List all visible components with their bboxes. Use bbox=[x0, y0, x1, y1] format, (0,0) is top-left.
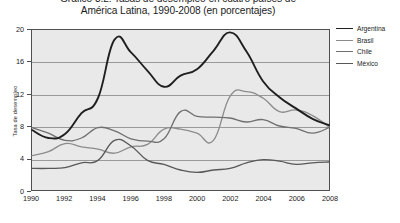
series-line-mxico bbox=[32, 139, 329, 172]
legend-label: Chile bbox=[357, 48, 372, 55]
y-axis-title: Tasa de desempleo bbox=[12, 56, 18, 166]
chart-title: Gráfico 3.2: Tasas de desempleo en cuatr… bbox=[28, 0, 328, 17]
legend-swatch bbox=[336, 28, 353, 29]
x-axis-tick-label: 2008 bbox=[315, 194, 345, 203]
legend-item-argentina: Argentina bbox=[336, 23, 400, 35]
x-axis-tick-label: 1992 bbox=[49, 194, 79, 203]
chart-title-line-2: América Latina, 1990-2008 (en porcentaje… bbox=[28, 5, 328, 17]
chart-legend: ArgentinaBrasilChileMéxico bbox=[336, 23, 400, 69]
y-axis-tick-label: 20 bbox=[0, 25, 24, 34]
y-axis-tick-mark bbox=[27, 159, 31, 160]
legend-item-mxico: México bbox=[336, 58, 400, 70]
y-axis-tick-mark bbox=[27, 29, 31, 30]
x-axis-tick-label: 2002 bbox=[215, 194, 245, 203]
x-axis-tick-label: 2006 bbox=[282, 194, 312, 203]
legend-label: México bbox=[357, 60, 378, 67]
series-lines bbox=[32, 30, 329, 190]
legend-label: Argentina bbox=[357, 25, 385, 32]
legend-item-chile: Chile bbox=[336, 46, 400, 58]
y-axis-tick-label: 8 bbox=[0, 122, 24, 131]
y-axis-tick-mark bbox=[27, 191, 31, 192]
x-axis-tick-label: 2004 bbox=[249, 194, 279, 203]
legend-item-brasil: Brasil bbox=[336, 35, 400, 47]
y-axis-tick-mark bbox=[27, 126, 31, 127]
series-line-brasil bbox=[32, 90, 329, 156]
y-axis-tick-mark bbox=[27, 61, 31, 62]
x-axis-tick-label: 1994 bbox=[82, 194, 112, 203]
y-axis-tick-label: 12 bbox=[0, 90, 24, 99]
chart-figure: Gráfico 3.2: Tasas de desempleo en cuatr… bbox=[0, 0, 400, 223]
series-line-chile bbox=[32, 110, 329, 142]
x-axis-tick-label: 1990 bbox=[16, 194, 46, 203]
x-axis-tick-label: 1998 bbox=[149, 194, 179, 203]
legend-label: Brasil bbox=[357, 37, 374, 44]
y-axis-tick-label: 4 bbox=[0, 154, 24, 163]
y-axis-tick-mark bbox=[27, 94, 31, 95]
legend-swatch bbox=[336, 40, 353, 41]
legend-swatch bbox=[336, 63, 353, 64]
x-axis-tick-label: 2000 bbox=[182, 194, 212, 203]
series-line-argentina bbox=[32, 32, 329, 138]
legend-swatch bbox=[336, 51, 353, 52]
y-axis-tick-label: 16 bbox=[0, 57, 24, 66]
plot-area bbox=[31, 29, 330, 191]
x-axis-tick-label: 1996 bbox=[116, 194, 146, 203]
